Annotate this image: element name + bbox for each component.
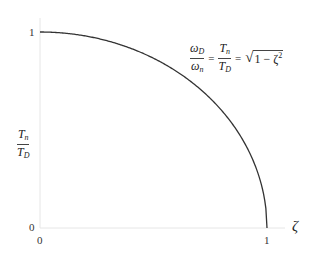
eq-omega-d-sub: D	[198, 47, 204, 56]
fraction-period: Tn TD	[218, 42, 230, 74]
x-tick-1: 1	[264, 235, 270, 246]
y-label-den: T	[17, 145, 24, 159]
equation-annotation: ωD ωn = Tn TD = √ 1 − ζ2	[190, 42, 283, 74]
y-axis-label: Tn TD	[17, 128, 29, 160]
radicand-text: 1 − ζ	[254, 52, 278, 66]
y-label-num-sub: n	[25, 133, 29, 142]
radicand: 1 − ζ2	[253, 50, 283, 67]
equals-sign: =	[235, 52, 241, 64]
eq-t-n-sub: n	[226, 47, 230, 56]
y-tick-1: 1	[29, 27, 35, 38]
y-label-num: T	[18, 127, 25, 141]
sqrt-expression: √ 1 − ζ2	[245, 50, 283, 67]
y-label-den-sub: D	[24, 151, 30, 160]
equals-sign: =	[208, 52, 214, 64]
fraction-omega: ωD ωn	[190, 42, 204, 74]
plot-area	[0, 0, 314, 253]
eq-omega-n-sub: n	[199, 65, 203, 74]
x-tick-0: 0	[37, 235, 43, 246]
y-tick-0: 0	[29, 222, 35, 233]
sqrt-icon: √	[245, 50, 253, 65]
eq-t-d-sub: D	[225, 65, 231, 74]
x-axis-label: ζ	[292, 218, 298, 235]
exponent: 2	[278, 51, 282, 60]
